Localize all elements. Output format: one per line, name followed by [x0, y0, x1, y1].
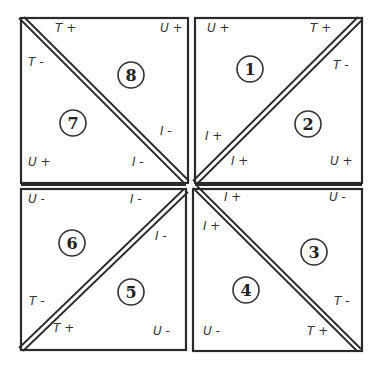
region-5-marker: 5 — [118, 279, 144, 305]
label-i-plus: I + — [203, 219, 220, 233]
quadrant-top-right: U + T + T - I + I + U + 1 2 — [193, 17, 362, 185]
label-t-plus: T + — [307, 324, 328, 338]
label-u-plus: U + — [28, 155, 51, 169]
region-number: 2 — [302, 115, 313, 134]
region-number: 1 — [244, 60, 255, 79]
quadrant-diagram: T + U + T - U + I - I - 8 7 U + T + T - … — [0, 0, 380, 366]
region-number: 3 — [308, 243, 319, 262]
label-t-minus: T - — [333, 58, 348, 72]
diagonal-divider — [197, 186, 361, 349]
label-t-minus: T - — [28, 55, 43, 69]
region-4-marker: 4 — [233, 277, 259, 303]
region-number: 7 — [67, 114, 78, 133]
quadrant-top-left: T + U + T - U + I - I - 8 7 — [19, 17, 189, 184]
region-number: 5 — [125, 283, 136, 302]
region-6-marker: 6 — [59, 230, 85, 256]
label-t-minus: T - — [29, 294, 44, 308]
label-u-plus: U + — [330, 154, 353, 168]
label-t-plus: T + — [53, 321, 74, 335]
label-u-minus: U - — [329, 190, 346, 204]
label-u-plus: U + — [160, 21, 183, 35]
region-7-marker: 7 — [60, 110, 86, 136]
label-i-minus: I - — [155, 229, 167, 243]
region-number: 6 — [66, 234, 77, 253]
region-2-marker: 2 — [295, 111, 321, 137]
region-number: 8 — [125, 66, 136, 85]
label-u-minus: U - — [28, 192, 45, 206]
label-u-minus: U - — [203, 324, 220, 338]
label-i-minus: I - — [130, 192, 142, 206]
label-u-minus: U - — [153, 324, 170, 338]
quadrant-bottom-right: I + U - I + T - U - T + 3 4 — [193, 185, 362, 351]
label-t-plus: T + — [310, 21, 331, 35]
region-1-marker: 1 — [237, 56, 263, 82]
label-i-plus: I + — [205, 129, 222, 143]
label-t-plus: T + — [55, 21, 76, 35]
label-i-plus: I + — [224, 190, 241, 204]
label-i-minus: I - — [132, 155, 144, 169]
region-number: 4 — [240, 281, 251, 300]
region-3-marker: 3 — [301, 239, 327, 265]
label-t-minus: T - — [334, 294, 349, 308]
label-i-plus: I + — [231, 154, 248, 168]
region-8-marker: 8 — [118, 62, 144, 88]
label-u-plus: U + — [207, 21, 230, 35]
label-i-minus: I - — [160, 124, 172, 138]
quadrant-bottom-left: U - I - I - T - T + U - 6 5 — [19, 185, 188, 351]
